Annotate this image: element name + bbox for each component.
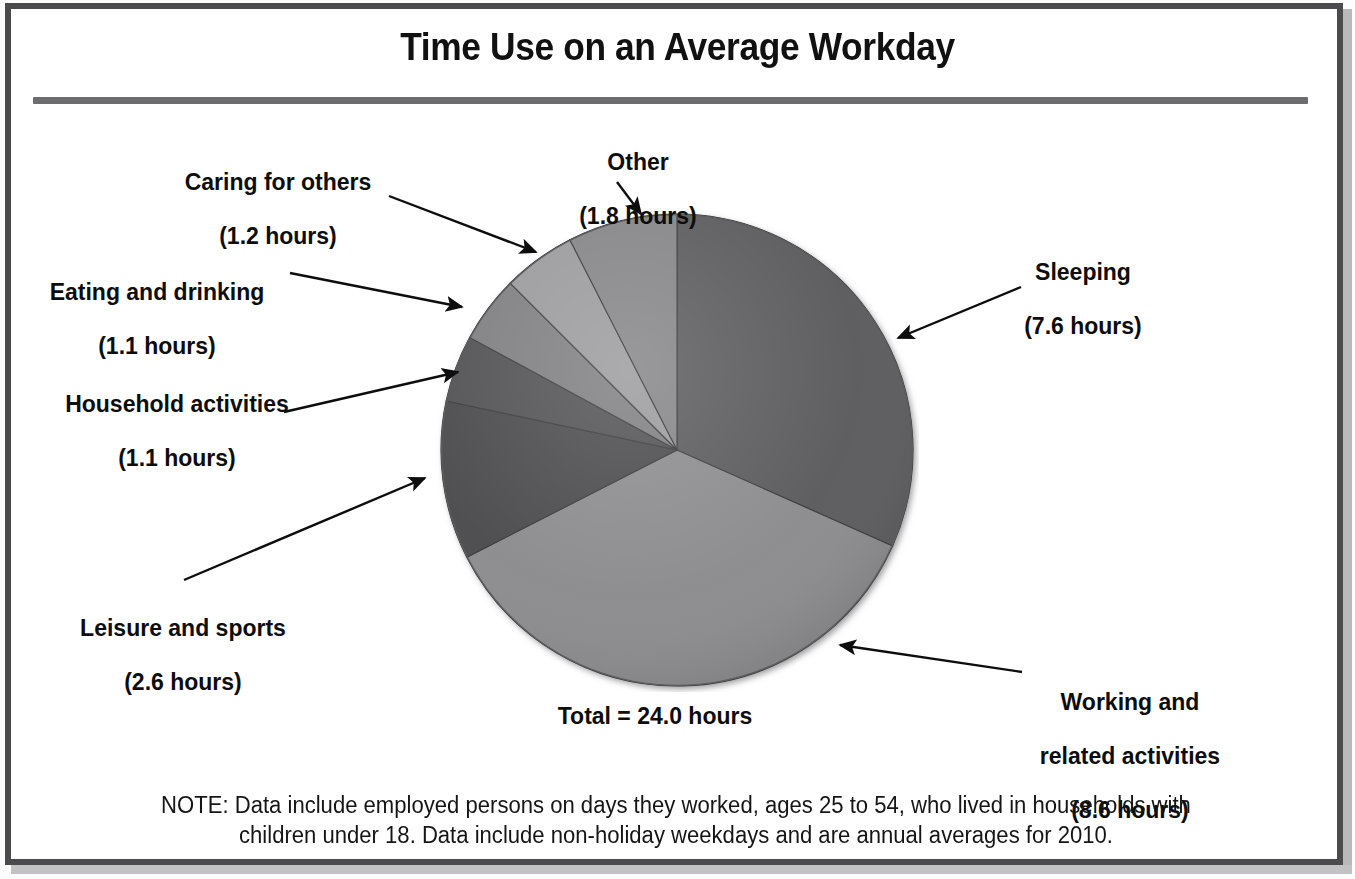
slice-label-caring-value: (1.2 hours) [128,223,428,250]
slice-label-other-name: Other [528,149,748,176]
chart-note-line-1: NOTE: Data include employed persons on d… [71,790,1281,820]
slice-label-eating-value: (1.1 hours) [12,333,302,360]
page-frame-shadow-bottom [11,865,1352,874]
slice-label-household-value: (1.1 hours) [32,445,322,472]
chart-page: Time Use on an Average Workday [0,0,1355,879]
page-frame-shadow-right [1343,9,1352,871]
slice-label-sleeping: Sleeping (7.6 hours) [968,232,1198,367]
chart-note-line-2: children under 18. Data include non-holi… [71,820,1281,850]
slice-label-caring-name: Caring for others [128,169,428,196]
slice-label-sleeping-name: Sleeping [968,259,1198,286]
slice-label-household-name: Household activities [32,391,322,418]
title-divider [33,97,1308,104]
slice-label-sleeping-value: (7.6 hours) [968,313,1198,340]
slice-label-leisure: Leisure and sports (2.6 hours) [38,588,328,723]
pie-chart [435,208,919,692]
slice-label-working-name2: related activities [1010,743,1250,770]
slice-label-leisure-value: (2.6 hours) [38,669,328,696]
page-title: Time Use on an Average Workday [47,26,1307,69]
slice-label-other-value: (1.8 hours) [528,203,748,230]
chart-note: NOTE: Data include employed persons on d… [71,790,1281,851]
slice-label-other: Other (1.8 hours) [528,122,748,257]
pie-total-label: Total = 24.0 hours [455,703,855,730]
pie-shading [442,215,913,686]
slice-label-working-name: Working and [1010,689,1250,716]
slice-label-household: Household activities (1.1 hours) [32,364,322,499]
slice-label-leisure-name: Leisure and sports [38,615,328,642]
slice-label-eating-name: Eating and drinking [12,279,302,306]
